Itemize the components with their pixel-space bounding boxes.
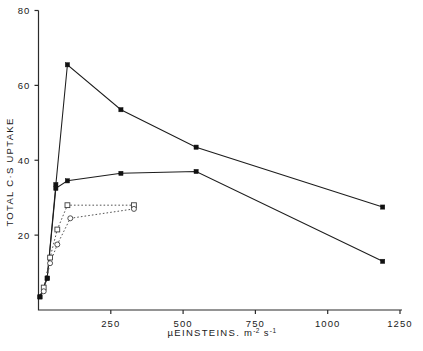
x-tick-label: 250 [101, 318, 120, 329]
marker-lower-solid [65, 179, 69, 183]
marker-upper-dotted [65, 203, 70, 208]
marker-lower-dotted [41, 289, 46, 294]
marker-lower-solid [119, 171, 123, 175]
marker-lower-dotted [131, 206, 136, 211]
marker-lower-dotted [48, 261, 53, 266]
axis-titles: TOTAL C·S UPTAKEµEINSTEINS. m-2 s-1 [4, 117, 276, 338]
x-tick-label: 1000 [315, 318, 341, 329]
data-series [40, 65, 383, 297]
y-tick-label: 60 [18, 80, 31, 91]
marker-lower-solid [54, 186, 58, 190]
y-tick-label: 80 [18, 5, 31, 16]
data-markers [38, 63, 385, 299]
marker-lower-solid [381, 259, 385, 263]
marker-upper-solid [381, 205, 385, 209]
axes [39, 11, 403, 311]
marker-upper-solid [194, 145, 198, 149]
tick-marks [35, 11, 401, 315]
marker-lower-solid [38, 295, 42, 299]
x-axis-title: µEINSTEINS. m-2 s-1 [168, 327, 277, 338]
chart-plot: 2040608025050075010001250 TOTAL C·S UPTA… [0, 0, 423, 351]
marker-upper-dotted [55, 227, 60, 232]
marker-lower-solid [45, 276, 49, 280]
marker-lower-dotted [68, 216, 73, 221]
y-tick-label: 20 [18, 230, 31, 241]
marker-upper-dotted [48, 255, 53, 260]
marker-upper-solid [119, 108, 123, 112]
tick-labels: 2040608025050075010001250 [18, 5, 413, 329]
series-line-lower-dotted [44, 209, 134, 291]
x-tick-label: 1250 [387, 318, 413, 329]
y-tick-label: 40 [18, 155, 31, 166]
marker-upper-solid [65, 63, 69, 67]
y-axis-title: TOTAL C·S UPTAKE [4, 117, 15, 226]
series-line-upper-solid [40, 65, 383, 297]
figure-container: 2040608025050075010001250 TOTAL C·S UPTA… [0, 0, 423, 351]
marker-lower-solid [194, 169, 198, 173]
marker-lower-dotted [55, 242, 60, 247]
